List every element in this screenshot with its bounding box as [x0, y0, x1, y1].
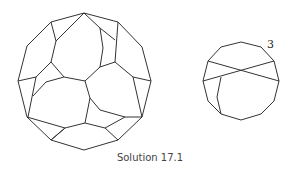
large-polygon-diagram [18, 13, 151, 150]
figure-caption: Solution 17.1 [110, 152, 190, 163]
diagram-canvas [0, 0, 292, 170]
vertex-label: 3 [267, 38, 274, 51]
small-polygon-diagram [203, 42, 279, 120]
